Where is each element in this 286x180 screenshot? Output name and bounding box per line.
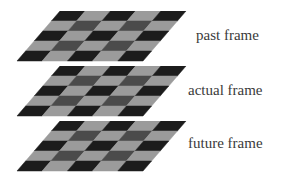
past-frame-checkerboard (0, 11, 200, 67)
past-frame: past frame (0, 11, 286, 67)
future-frame-label: future frame (188, 136, 263, 151)
actual-frame: actual frame (0, 66, 286, 122)
future-frame: future frame (0, 121, 286, 177)
actual-frame-checkerboard (0, 66, 200, 122)
actual-frame-label: actual frame (188, 83, 263, 98)
future-frame-checkerboard (0, 121, 200, 177)
past-frame-label: past frame (196, 28, 259, 43)
